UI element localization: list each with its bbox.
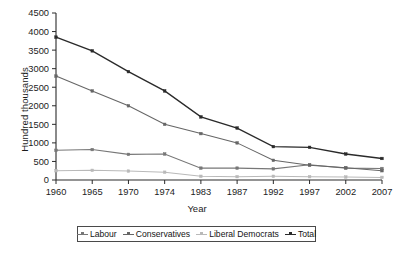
y-tick-label: 0 bbox=[44, 175, 49, 185]
line-chart: Hundred thousands 0500100015002000250030… bbox=[0, 0, 394, 258]
data-point bbox=[344, 176, 347, 179]
data-point bbox=[163, 171, 166, 174]
y-tick-label: 4000 bbox=[28, 27, 49, 37]
data-point bbox=[163, 123, 166, 126]
data-point bbox=[272, 145, 275, 148]
data-point bbox=[308, 175, 311, 178]
y-axis-tick-labels: 050010001500200025003000350040004500 bbox=[28, 8, 49, 185]
plot-area: 050010001500200025003000350040004500 196… bbox=[0, 0, 394, 258]
y-tick-label: 1500 bbox=[28, 120, 49, 130]
data-point bbox=[91, 148, 94, 151]
x-tick-label: 1983 bbox=[191, 187, 212, 197]
data-point bbox=[236, 127, 239, 130]
data-series-layer bbox=[55, 36, 384, 179]
y-tick-label: 2500 bbox=[28, 83, 49, 93]
x-tick-label: 1997 bbox=[299, 187, 320, 197]
data-point bbox=[344, 166, 347, 169]
data-point bbox=[163, 90, 166, 93]
data-point bbox=[127, 104, 130, 107]
data-point bbox=[381, 157, 384, 160]
data-point bbox=[127, 70, 130, 73]
data-point bbox=[200, 175, 203, 178]
data-point bbox=[236, 142, 239, 145]
x-tick-label: 1970 bbox=[118, 187, 139, 197]
data-point bbox=[200, 167, 203, 170]
data-point bbox=[236, 175, 239, 178]
data-point bbox=[163, 153, 166, 156]
data-point bbox=[91, 90, 94, 93]
legend-label: Labour bbox=[90, 229, 117, 239]
data-point bbox=[272, 159, 275, 162]
series-liberal-democrats bbox=[55, 169, 384, 179]
legend-item[interactable]: Total bbox=[285, 229, 316, 239]
x-tick-label: 1992 bbox=[263, 187, 284, 197]
y-tick-label: 1000 bbox=[28, 138, 49, 148]
legend-label: Total bbox=[298, 229, 316, 239]
legend-label: Liberal Democrats bbox=[209, 229, 279, 239]
data-point bbox=[127, 170, 130, 173]
x-tick-label: 2002 bbox=[335, 187, 356, 197]
data-point bbox=[308, 146, 311, 149]
data-point bbox=[200, 116, 203, 119]
data-point bbox=[91, 169, 94, 172]
data-point bbox=[308, 164, 311, 167]
x-axis-title: Year bbox=[0, 203, 394, 214]
data-point bbox=[344, 153, 347, 156]
data-point bbox=[381, 176, 384, 179]
legend-item[interactable]: Conservatives bbox=[123, 229, 190, 239]
data-point bbox=[55, 36, 58, 39]
x-tick-label: 1965 bbox=[82, 187, 103, 197]
data-point bbox=[236, 167, 239, 170]
series-conservatives bbox=[55, 75, 384, 172]
data-point bbox=[272, 168, 275, 171]
data-point bbox=[127, 153, 130, 156]
legend-marker-icon bbox=[196, 230, 207, 239]
legend-marker-icon bbox=[77, 230, 88, 239]
series-total bbox=[55, 36, 384, 160]
y-tick-label: 500 bbox=[33, 157, 49, 167]
x-tick-label: 1987 bbox=[227, 187, 248, 197]
legend-marker-icon bbox=[285, 230, 296, 239]
legend-item[interactable]: Liberal Democrats bbox=[196, 229, 279, 239]
data-point bbox=[381, 169, 384, 172]
legend-label: Conservatives bbox=[136, 229, 190, 239]
data-point bbox=[55, 149, 58, 152]
legend-item[interactable]: Labour bbox=[77, 229, 117, 239]
x-axis-tick-labels: 1960196519701974198319871992199720022007 bbox=[46, 187, 393, 197]
y-tick-label: 2000 bbox=[28, 101, 49, 111]
data-point bbox=[91, 50, 94, 53]
x-tick-label: 2007 bbox=[372, 187, 393, 197]
y-tick-label: 3000 bbox=[28, 64, 49, 74]
data-point bbox=[272, 175, 275, 178]
x-tick-label: 1974 bbox=[154, 187, 175, 197]
chart-legend: LabourConservativesLiberal DemocratsTota… bbox=[77, 226, 316, 242]
data-point bbox=[55, 75, 58, 78]
x-axis-ticks bbox=[56, 180, 382, 184]
data-point bbox=[200, 132, 203, 135]
x-tick-label: 1960 bbox=[46, 187, 67, 197]
data-point bbox=[55, 169, 58, 172]
y-tick-label: 3500 bbox=[28, 46, 49, 56]
y-tick-label: 4500 bbox=[28, 8, 49, 18]
legend-marker-icon bbox=[123, 230, 134, 239]
